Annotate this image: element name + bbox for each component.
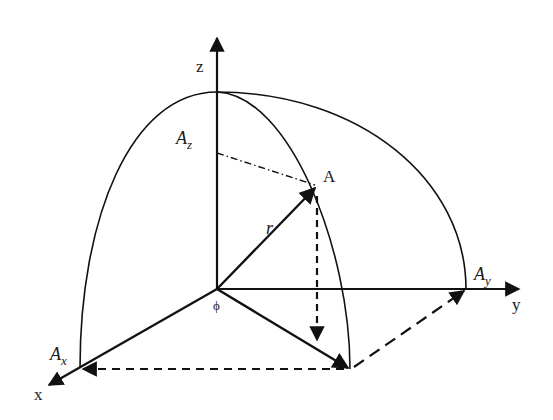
Ay-sub: y <box>483 273 491 288</box>
projection-xy <box>217 289 348 368</box>
dashed-foot-to-Ay <box>354 291 464 367</box>
arc-xz-plane <box>80 92 217 368</box>
Az-sub: z <box>186 137 192 152</box>
phi-angle-label: ϕ <box>213 298 220 313</box>
z-axis-label: z <box>196 57 204 76</box>
arc-yz-plane <box>217 92 466 289</box>
x-axis <box>49 289 217 385</box>
point-A-label: A <box>323 167 336 186</box>
y-axis-label: y <box>512 295 521 314</box>
radius-r-label: r <box>266 218 274 238</box>
Ax-sub: x <box>60 353 67 368</box>
dashdot-Az-to-A <box>217 153 315 185</box>
vector-diagram: z y x A r ϕ Az Ay Ax <box>0 0 553 420</box>
Ay-label: Ay <box>473 264 491 288</box>
x-axis-label: x <box>34 385 43 404</box>
Az-label: Az <box>175 128 192 152</box>
vector-r <box>217 188 315 289</box>
arc-through-A <box>217 92 350 369</box>
Ax-label: Ax <box>49 344 67 368</box>
